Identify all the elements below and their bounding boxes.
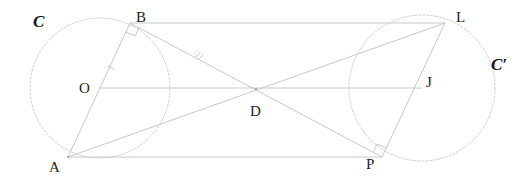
label-circle-c: C [33, 12, 45, 31]
point-d-dot [255, 88, 257, 90]
point-a-dot [67, 156, 69, 158]
label-point-b: B [136, 9, 146, 25]
segment-lp [382, 23, 445, 157]
label-point-l: L [456, 9, 465, 25]
segment-ab [68, 23, 130, 157]
tick-mark-bd-2 [199, 55, 203, 59]
label-point-a: A [49, 159, 60, 175]
tick-mark-bd-1 [196, 53, 200, 57]
diagram-svg: C C′ B O A D L J P [0, 0, 531, 178]
label-point-p: P [366, 156, 374, 172]
geometry-diagram: C C′ B O A D L J P [0, 0, 531, 178]
label-point-j: J [426, 74, 432, 90]
label-point-o: O [79, 80, 90, 96]
label-point-d: D [250, 103, 261, 119]
label-circle-c-prime: C′ [491, 55, 507, 74]
